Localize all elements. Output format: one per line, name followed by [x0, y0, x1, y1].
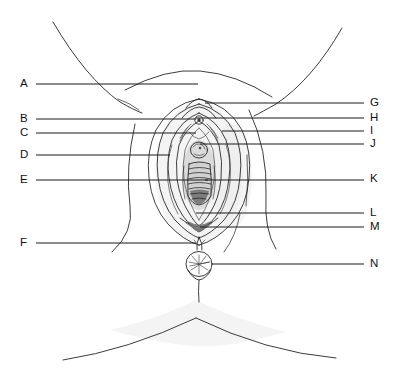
label-letter-h[interactable]: H [370, 111, 379, 123]
anatomy-line-drawing [0, 0, 396, 389]
clitoral-glans-center [197, 118, 200, 121]
label-letter-b[interactable]: B [20, 112, 28, 124]
left-thigh-crease [118, 99, 139, 110]
posterior-raphe [199, 280, 200, 302]
label-letter-c[interactable]: C [20, 126, 29, 138]
anus-lower-contour [188, 270, 211, 280]
label-letter-g[interactable]: G [370, 96, 379, 108]
gluteal-soft-shadow [110, 300, 286, 346]
anal-folds [189, 255, 210, 274]
label-letter-i[interactable]: I [370, 124, 373, 136]
urethral-meatus-dot [199, 147, 201, 149]
anatomy-diagram: ABCDEF GHIJKLMN [0, 0, 396, 389]
left-labiocrural-fold [112, 124, 135, 252]
label-letter-f[interactable]: F [20, 236, 27, 248]
label-letter-e[interactable]: E [20, 173, 28, 185]
label-letter-n[interactable]: N [370, 257, 379, 269]
label-letter-j[interactable]: J [370, 137, 376, 149]
label-letter-d[interactable]: D [20, 148, 29, 160]
label-letter-k[interactable]: K [370, 172, 378, 184]
label-letter-m[interactable]: M [370, 220, 380, 232]
label-letter-a[interactable]: A [20, 77, 28, 89]
left-thigh-contour [53, 22, 142, 113]
label-letter-l[interactable]: L [370, 206, 377, 218]
